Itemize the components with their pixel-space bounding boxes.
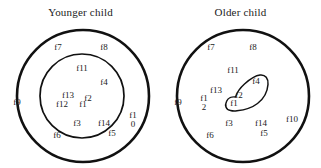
diagram-older bbox=[160, 0, 321, 168]
feature-label-f14: f14 bbox=[255, 119, 267, 129]
younger-shapes bbox=[0, 0, 161, 168]
panel-younger-child: Younger child f7f8f9f10f6f5f11f4f13f12f1… bbox=[0, 0, 161, 168]
feature-label-f9: f9 bbox=[13, 98, 21, 108]
feature-label-f5: f5 bbox=[108, 129, 116, 139]
diagram-younger bbox=[0, 0, 161, 168]
feature-label-f10: f10 bbox=[129, 111, 138, 129]
feature-label-f13: f13 bbox=[210, 86, 222, 96]
feature-label-f3: f3 bbox=[225, 119, 233, 129]
panel-older-child: Older child f7f8f9f10f6f5f11f13f12f4f2f1… bbox=[160, 0, 321, 168]
feature-label-f1: f1 bbox=[230, 99, 238, 109]
older-shapes bbox=[160, 0, 321, 168]
feature-label-f11: f11 bbox=[76, 64, 88, 74]
feature-label-f12: f12 bbox=[56, 100, 68, 110]
feature-label-f9: f9 bbox=[174, 98, 182, 108]
feature-label-f7: f7 bbox=[207, 43, 215, 53]
feature-label-f6: f6 bbox=[53, 131, 61, 141]
feature-label-f12: f12 bbox=[200, 94, 209, 112]
feature-label-f11: f11 bbox=[227, 66, 239, 76]
feature-label-f4: f4 bbox=[252, 77, 260, 87]
feature-label-f8: f8 bbox=[100, 43, 108, 53]
outer-circle bbox=[17, 30, 149, 162]
feature-label-f10: f10 bbox=[286, 115, 298, 125]
feature-label-f6: f6 bbox=[206, 131, 214, 141]
feature-label-f8: f8 bbox=[249, 43, 257, 53]
feature-label-f5: f5 bbox=[260, 129, 268, 139]
feature-label-f2: f2 bbox=[84, 94, 92, 104]
feature-label-f3: f3 bbox=[73, 119, 81, 129]
feature-label-f14: f14 bbox=[98, 119, 110, 129]
outer-circle bbox=[177, 30, 309, 162]
feature-label-f7: f7 bbox=[54, 43, 62, 53]
feature-label-f4: f4 bbox=[100, 78, 108, 88]
